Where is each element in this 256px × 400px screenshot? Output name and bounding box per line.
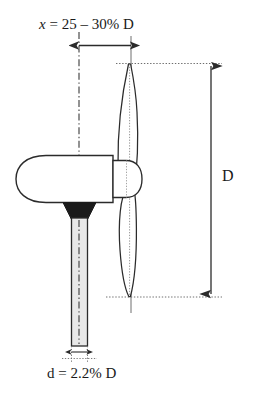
rotor-blade-lower — [119, 190, 136, 297]
tower-diameter-label: d = 2.2% D — [47, 366, 116, 381]
diameter-label: D — [222, 168, 234, 184]
yaw-bearing — [63, 203, 96, 220]
nacelle — [16, 156, 113, 203]
hub — [113, 161, 142, 198]
offset-label-value: = 25 – 30% D — [46, 16, 134, 32]
diagram-canvas: x = 25 – 30% D D d = 2.2% D — [0, 0, 256, 400]
offset-label-variable: x — [39, 16, 46, 32]
offset-label: x = 25 – 30% D — [39, 17, 134, 32]
wind-turbine-diagram — [0, 0, 256, 400]
